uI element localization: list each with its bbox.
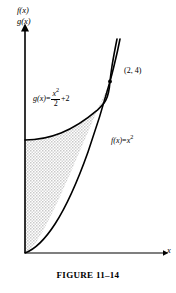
- gx-name: g(x): [33, 95, 46, 103]
- curve-label-gx: g(x)= x2 2 +2: [33, 90, 70, 108]
- intersection-point: [108, 80, 112, 84]
- fx-exponent: 2: [130, 133, 133, 140]
- figure-caption: FIGURE 11–14: [0, 270, 176, 280]
- intersection-point-label: (2, 4): [124, 67, 141, 75]
- gx-equals: =: [46, 95, 51, 103]
- gx-denominator: 2: [53, 100, 59, 108]
- axis-y-label-fx: f(x): [17, 5, 31, 16]
- figure-container: f(x) g(x) x (2, 4) f(x)=x2 g(x)= x2 2 +2…: [0, 0, 176, 293]
- gx-num-exponent: 2: [56, 86, 59, 93]
- gx-numerator: x2: [51, 90, 60, 98]
- curve-label-fx: f(x)=x2: [111, 137, 133, 145]
- gx-plus-term: +2: [61, 95, 70, 103]
- axis-x-label: x: [167, 246, 171, 255]
- axis-y-label: f(x) g(x): [17, 5, 31, 26]
- gx-fraction: x2 2: [51, 90, 60, 108]
- plot-area: [0, 0, 176, 293]
- axis-y-label-gx: g(x): [17, 16, 31, 27]
- fx-name: f(x): [111, 136, 122, 145]
